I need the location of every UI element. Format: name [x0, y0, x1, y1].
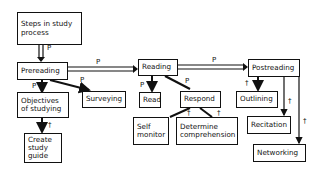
- edge-label-t: †: [303, 118, 307, 125]
- edge-label-t: †: [48, 122, 52, 129]
- node-determine-comprehension: Determine comprehension: [176, 117, 238, 145]
- node-outlining: Outlining: [236, 91, 278, 108]
- node-recitation: Recitation: [247, 116, 291, 134]
- node-read: Read: [139, 92, 161, 108]
- node-objectives-of-studying: Objectives of studying: [17, 92, 69, 118]
- node-networking: Networking: [253, 144, 306, 162]
- edge-label-t: †: [288, 98, 292, 105]
- node-create-study-guide: Create study guide: [24, 133, 62, 163]
- node-postreading: Postreading: [248, 59, 300, 77]
- edge-label-p: P: [140, 82, 144, 89]
- node-surveying: Surveying: [82, 91, 126, 108]
- node-prereading: Prereading: [17, 62, 68, 80]
- edge-label-t: †: [245, 80, 249, 87]
- edge-label-p: P: [47, 45, 51, 52]
- edge-label-p: P: [212, 57, 216, 64]
- edge-label-t: †: [217, 110, 221, 117]
- edge-label-p: P: [185, 78, 189, 85]
- node-respond: Respond: [180, 91, 221, 108]
- edge-label-p: P: [96, 59, 100, 66]
- node-reading: Reading: [138, 59, 178, 76]
- edge-label-t: †: [187, 110, 191, 117]
- node-self-monitor: Self monitor: [133, 117, 169, 145]
- node-steps-in-study-process: Steps in study process: [17, 12, 82, 45]
- edge-label-p: P: [80, 77, 84, 84]
- edge-label-p: P: [32, 83, 36, 90]
